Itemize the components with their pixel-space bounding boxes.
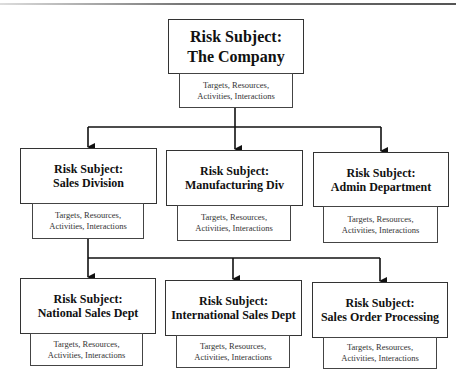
node-name: Sales Division bbox=[53, 176, 124, 190]
details-line: Targets, Resources, bbox=[201, 212, 267, 223]
node-manufacturing-div: Risk Subject: Manufacturing Div bbox=[166, 150, 303, 206]
node-name: National Sales Dept bbox=[38, 306, 139, 320]
node-name: The Company bbox=[187, 47, 284, 67]
node-national-sales-dept-details: Targets, Resources, Activities, Interact… bbox=[30, 333, 143, 366]
details-line: Targets, Resources, bbox=[347, 342, 413, 353]
node-title: Risk Subject: bbox=[190, 27, 282, 47]
details-line: Targets, Resources, bbox=[53, 339, 119, 350]
node-title: Risk Subject: bbox=[200, 164, 269, 178]
node-title: Risk Subject: bbox=[346, 166, 415, 180]
details-line: Activities, Interactions bbox=[195, 223, 272, 234]
node-manufacturing-div-details: Targets, Resources, Activities, Interact… bbox=[177, 205, 291, 241]
node-admin-department-details: Targets, Resources, Activities, Interact… bbox=[323, 206, 438, 243]
node-the-company-details: Targets, Resources, Activities, Interact… bbox=[179, 73, 293, 108]
node-title: Risk Subject: bbox=[199, 294, 268, 308]
node-sales-division: Risk Subject: Sales Division bbox=[20, 148, 157, 204]
details-line: Targets, Resources, bbox=[203, 80, 269, 91]
node-the-company: Risk Subject: The Company bbox=[168, 19, 304, 74]
details-line: Activities, Interactions bbox=[197, 91, 274, 102]
node-sales-order-processing-details: Targets, Resources, Activities, Interact… bbox=[323, 337, 437, 369]
node-name: Manufacturing Div bbox=[185, 178, 284, 192]
details-line: Targets, Resources, bbox=[55, 210, 121, 221]
node-international-sales-dept-details: Targets, Resources, Activities, Interact… bbox=[176, 335, 290, 368]
details-line: Activities, Interactions bbox=[194, 352, 271, 363]
node-title: Risk Subject: bbox=[345, 296, 414, 310]
details-line: Activities, Interactions bbox=[48, 350, 125, 361]
node-name: International Sales Dept bbox=[171, 308, 296, 322]
node-sales-division-details: Targets, Resources, Activities, Interact… bbox=[32, 203, 144, 239]
node-sales-order-processing: Risk Subject: Sales Order Processing bbox=[312, 282, 448, 338]
node-title: Risk Subject: bbox=[54, 162, 123, 176]
node-admin-department: Risk Subject: Admin Department bbox=[313, 152, 449, 207]
details-line: Targets, Resources, bbox=[347, 214, 413, 225]
details-line: Activities, Interactions bbox=[341, 353, 418, 364]
node-name: Admin Department bbox=[331, 180, 431, 194]
node-national-sales-dept: Risk Subject: National Sales Dept bbox=[20, 278, 156, 334]
node-international-sales-dept: Risk Subject: International Sales Dept bbox=[165, 280, 302, 336]
details-line: Activities, Interactions bbox=[342, 225, 419, 236]
node-title: Risk Subject: bbox=[53, 292, 122, 306]
details-line: Activities, Interactions bbox=[49, 221, 126, 232]
details-line: Targets, Resources, bbox=[200, 341, 266, 352]
node-name: Sales Order Processing bbox=[321, 310, 439, 324]
